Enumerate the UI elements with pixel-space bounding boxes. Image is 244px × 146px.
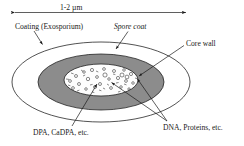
dna-label: DNA, Proteins, etc.: [163, 124, 223, 132]
coating-leader: [34, 31, 43, 45]
coating-label: Coating (Exosporium): [15, 23, 83, 31]
spore-structure-figure: 1-2 µm Coating (Exosporium) Spore coat C…: [0, 0, 244, 146]
core-wall-label: Core wall: [186, 40, 216, 48]
scale-bar-label: 1-2 µm: [60, 4, 82, 12]
spore-coat-label: Spore coat: [114, 23, 146, 31]
dpa-label: DPA, CaDPA, etc.: [33, 129, 89, 137]
